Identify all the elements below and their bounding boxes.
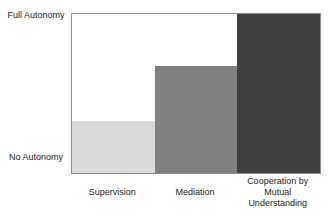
y-axis-label-no-autonomy: No Autonomy	[6, 152, 66, 163]
x-axis-label: Cooperation by Mutual Understanding	[246, 176, 309, 209]
bar-supervision	[72, 121, 155, 173]
x-axis-label: Mediation	[154, 187, 237, 198]
plot-area	[71, 13, 321, 174]
x-axis-labels: SupervisionMediationCooperation by Mutua…	[71, 176, 321, 220]
x-axis-label: Supervision	[71, 187, 154, 198]
y-axis-label-full-autonomy: Full Autonomy	[6, 10, 66, 21]
bar-mediation	[155, 66, 238, 173]
bar-cooperation-by-mutual-understanding	[237, 14, 320, 173]
